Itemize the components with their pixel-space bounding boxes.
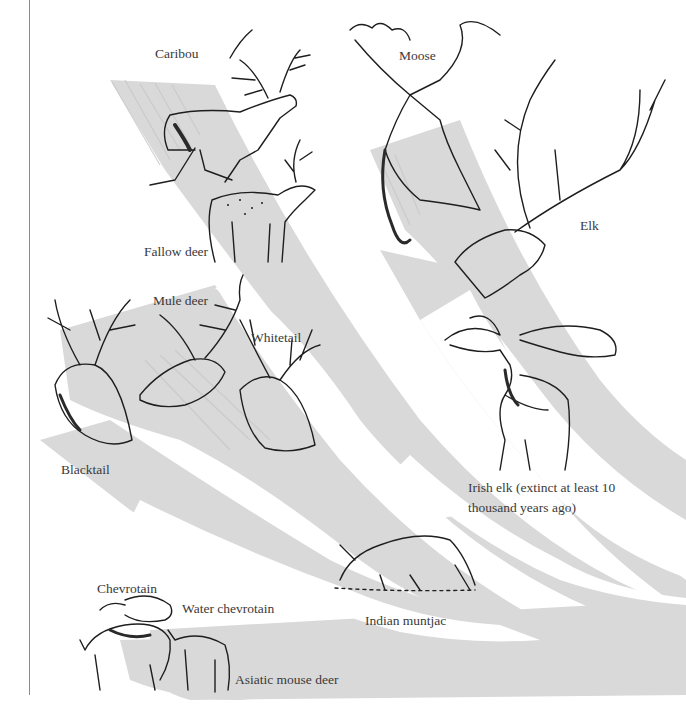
deer-family-tree-diagram: Caribou Moose Fallow deer Elk Mule deer … — [0, 0, 686, 725]
label-irish-elk-line2: thousand years ago) — [468, 497, 576, 519]
label-moose: Moose — [399, 45, 436, 67]
label-mule-deer: Mule deer — [153, 290, 208, 312]
label-caribou: Caribou — [155, 43, 199, 65]
label-irish-elk-line1: Irish elk (extinct at least 10 — [468, 477, 615, 499]
label-whitetail: Whitetail — [251, 327, 301, 349]
lineage-bands — [0, 0, 686, 725]
label-blacktail: Blacktail — [61, 459, 110, 481]
label-asiatic-mouse-deer: Asiatic mouse deer — [235, 669, 338, 691]
label-indian-muntjac: Indian muntjac — [365, 610, 446, 632]
label-elk: Elk — [580, 215, 599, 237]
label-fallow-deer: Fallow deer — [144, 241, 208, 263]
label-water-chevrotain: Water chevrotain — [182, 598, 274, 620]
label-chevrotain: Chevrotain — [97, 578, 157, 600]
